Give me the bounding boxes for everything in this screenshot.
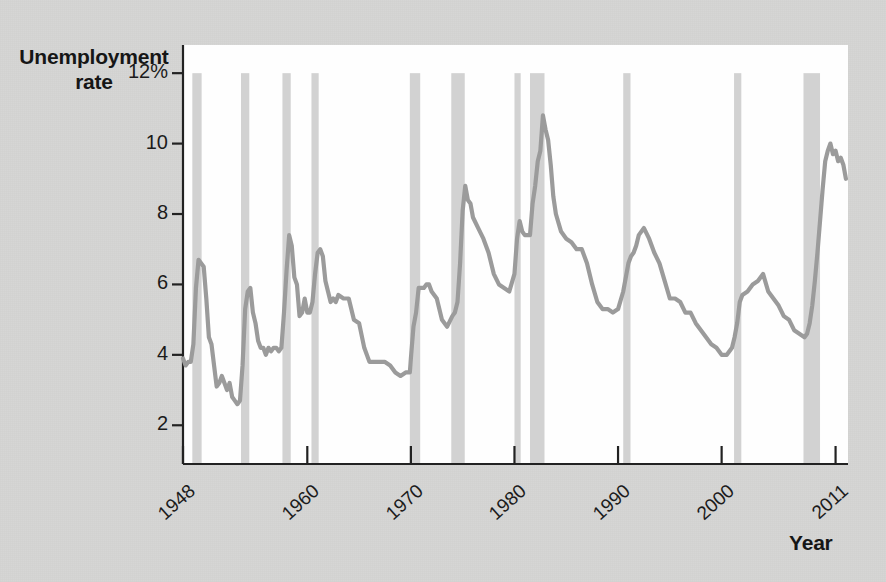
y-axis-tick-label: 2 [58,412,168,435]
unemployment-rate-chart: Unemployment rate Year 12%108642 1948196… [0,0,886,582]
recession-band [734,73,741,464]
recession-band [410,73,420,464]
y-axis-tick-label: 10 [58,131,168,154]
axes-group [172,45,848,464]
y-axis-tick-label: 8 [58,201,168,224]
y-axis-tick-label: 12% [58,60,168,83]
recession-band [241,73,249,464]
y-axis-tick-label: 6 [58,271,168,294]
y-axis-tick-label: 4 [58,342,168,365]
